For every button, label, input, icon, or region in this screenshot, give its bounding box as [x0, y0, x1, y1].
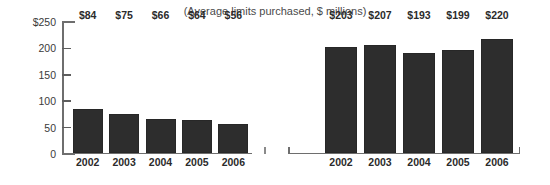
left-bar-group: $84$75$66$64$56	[62, 23, 252, 153]
bar-right-2004[interactable]: $193	[403, 53, 435, 153]
y-axis-label: 0	[8, 148, 56, 160]
bar-value-label: $220	[485, 9, 508, 21]
bar-slot[interactable]: $75	[106, 23, 141, 153]
left-x-axis-labels: 20022003200420052006	[62, 156, 252, 170]
x-axis-label-2005: 2005	[179, 156, 214, 170]
axis-break-tick	[264, 147, 266, 154]
bar-slot[interactable]: $220	[478, 23, 516, 153]
bar-left-2006[interactable]: $56	[218, 124, 248, 153]
y-axis-label: 150	[8, 69, 56, 81]
bar-slot[interactable]: $66	[143, 23, 178, 153]
bar-value-label: $64	[188, 9, 206, 21]
bar-left-2002[interactable]: $84	[73, 109, 103, 153]
bar-value-label: $207	[368, 9, 391, 21]
left-chart-panel: $84$75$66$64$56	[62, 22, 252, 154]
x-axis-label-2005: 2005	[439, 156, 477, 170]
bar-value-label: $56	[225, 9, 243, 21]
y-axis-label: 100	[8, 95, 56, 107]
bar-slot[interactable]: $193	[400, 23, 438, 153]
x-axis-label-2003: 2003	[361, 156, 399, 170]
bar-right-2002[interactable]: $203	[325, 47, 357, 153]
x-axis-label-2002: 2002	[322, 156, 360, 170]
bar-value-label: $66	[152, 9, 170, 21]
bar-right-2005[interactable]: $199	[442, 50, 474, 153]
right-bar-group: $203$207$193$199$220	[288, 23, 520, 153]
x-axis-label-2004: 2004	[143, 156, 178, 170]
x-axis-label-2003: 2003	[106, 156, 141, 170]
right-baseline	[288, 153, 520, 155]
x-axis-label-2006: 2006	[478, 156, 516, 170]
bar-right-2003[interactable]: $207	[364, 45, 396, 153]
right-x-axis-labels: 20022003200420052006	[288, 156, 520, 170]
x-axis-label-2002: 2002	[70, 156, 105, 170]
bar-slot[interactable]: $56	[216, 23, 251, 153]
x-axis-label-2006: 2006	[216, 156, 251, 170]
bar-left-2005[interactable]: $64	[182, 120, 212, 153]
chart-figure: (Average limits purchased, $ millions) $…	[0, 0, 550, 185]
bar-left-2004[interactable]: $66	[146, 119, 176, 153]
bar-value-label: $193	[407, 9, 430, 21]
bar-left-2003[interactable]: $75	[109, 114, 139, 153]
y-axis-label: $250	[8, 16, 56, 28]
x-axis-label-2004: 2004	[400, 156, 438, 170]
bar-right-2006[interactable]: $220	[481, 39, 513, 153]
y-axis-label: 50	[8, 122, 56, 134]
left-baseline	[62, 153, 252, 155]
bar-slot[interactable]: $203	[322, 23, 360, 153]
right-chart-panel: $203$207$193$199$220	[288, 22, 520, 154]
bar-slot[interactable]: $84	[70, 23, 105, 153]
bar-slot[interactable]: $64	[179, 23, 214, 153]
bar-value-label: $199	[446, 9, 469, 21]
bar-value-label: $203	[329, 9, 352, 21]
y-axis-label: 200	[8, 42, 56, 54]
bar-slot[interactable]: $199	[439, 23, 477, 153]
bar-value-label: $75	[115, 9, 133, 21]
bar-slot[interactable]: $207	[361, 23, 399, 153]
bar-value-label: $84	[79, 9, 97, 21]
